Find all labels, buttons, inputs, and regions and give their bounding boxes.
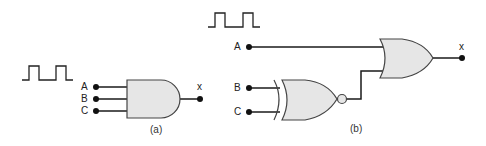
xnor-extra-arc (274, 80, 279, 120)
input-label-a: A (81, 82, 88, 92)
xnor-gate (282, 80, 337, 120)
square-wave-icon-a (22, 66, 73, 80)
or-gate (380, 39, 433, 78)
input-label-c: C (234, 107, 241, 117)
caption-a: (a) (150, 125, 162, 135)
and-gate (127, 80, 180, 118)
input-label-a: A (234, 42, 241, 52)
caption-b: (b) (350, 124, 362, 134)
output-label-x: x (459, 42, 464, 52)
input-label-b: B (234, 83, 241, 93)
inverter-bubble (338, 95, 347, 104)
input-label-c: C (81, 106, 88, 116)
logic-diagrams (0, 0, 486, 146)
input-label-b: B (81, 94, 88, 104)
square-wave-icon-b (208, 13, 260, 27)
output-label-x: x (197, 82, 202, 92)
